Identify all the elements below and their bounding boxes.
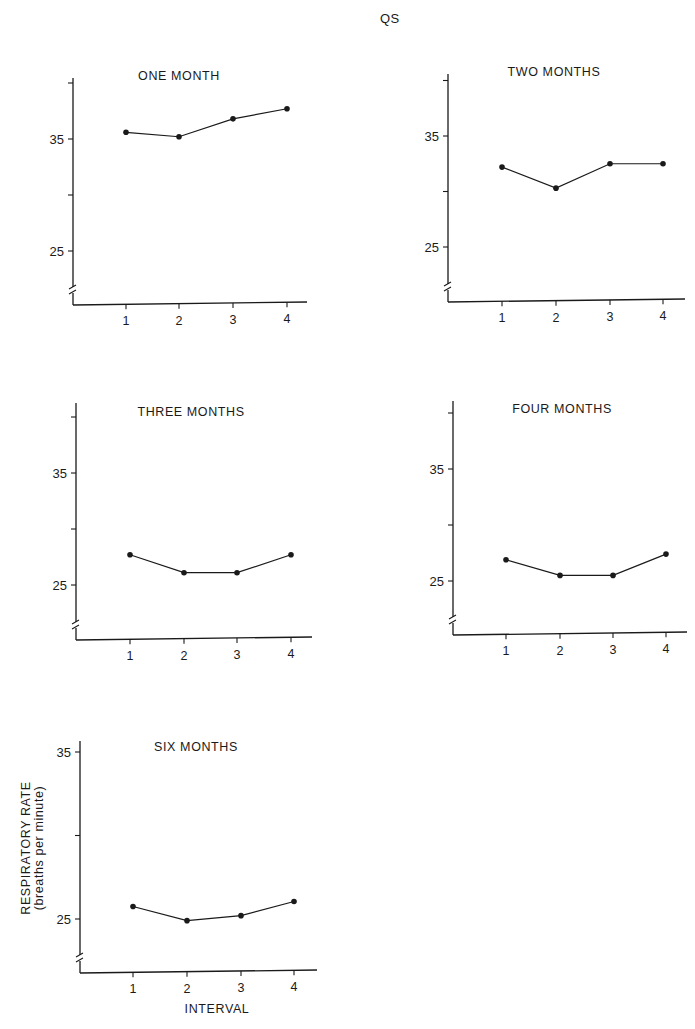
y-tick-label: 25 <box>57 912 71 927</box>
x-tick-label: 1 <box>499 311 506 325</box>
data-point <box>230 116 236 122</box>
data-point <box>127 552 133 558</box>
data-point <box>184 918 190 924</box>
x-tick-label: 4 <box>291 980 298 994</box>
chart-panels: ONE MONTH25351234TWO MONTHS25351234THREE… <box>50 65 687 996</box>
data-point <box>663 551 669 557</box>
chart-title: THREE MONTHS <box>137 405 244 419</box>
x-tick-label: 3 <box>230 313 237 327</box>
data-point <box>499 164 505 170</box>
chart-title: TWO MONTHS <box>508 65 601 79</box>
data-point <box>553 185 559 191</box>
y-tick-label: 25 <box>53 578 67 593</box>
x-tick-label: 3 <box>610 643 617 657</box>
data-point <box>607 161 613 167</box>
x-tick-label: 2 <box>184 982 191 996</box>
data-point <box>176 134 182 140</box>
data-line <box>133 901 294 920</box>
data-line <box>506 554 666 575</box>
chart-panel-3: THREE MONTHS25351234 <box>53 403 312 663</box>
x-axis-label: INTERVAL <box>185 1002 250 1016</box>
data-point <box>557 573 563 579</box>
y-tick-label: 25 <box>425 240 439 255</box>
x-tick-label: 1 <box>130 982 137 996</box>
x-tick-label: 3 <box>607 310 614 324</box>
data-point <box>123 129 129 135</box>
x-axis-line <box>76 637 312 640</box>
data-point <box>234 570 240 576</box>
data-point <box>660 161 666 167</box>
data-line <box>126 109 287 137</box>
data-point <box>130 904 136 910</box>
x-tick-label: 3 <box>238 981 245 995</box>
y-tick-label: 25 <box>430 574 444 589</box>
x-tick-label: 3 <box>234 648 241 662</box>
data-point <box>284 106 290 112</box>
y-tick-label: 35 <box>430 462 444 477</box>
x-axis-line <box>73 302 307 305</box>
y-axis-label-line1: RESPIRATORY RATE <box>19 781 33 914</box>
x-axis-line <box>448 299 685 302</box>
data-point <box>610 573 616 579</box>
x-tick-label: 2 <box>181 649 188 663</box>
x-tick-label: 4 <box>288 647 295 661</box>
data-point <box>291 899 297 905</box>
data-line <box>502 164 663 188</box>
x-tick-label: 4 <box>284 312 291 326</box>
chart-title: ONE MONTH <box>138 69 220 83</box>
x-axis-line <box>80 970 317 973</box>
x-tick-label: 2 <box>553 311 560 325</box>
y-axis-label-line2: (breaths per minute) <box>32 786 46 911</box>
data-point <box>238 913 244 919</box>
y-tick-label: 35 <box>50 132 64 147</box>
data-line <box>130 555 291 573</box>
x-tick-label: 2 <box>176 314 183 328</box>
x-tick-label: 1 <box>123 314 130 328</box>
x-tick-label: 2 <box>557 644 564 658</box>
chart-title: SIX MONTHS <box>154 740 238 754</box>
x-tick-label: 4 <box>663 642 670 656</box>
chart-panel-2: TWO MONTHS25351234 <box>425 65 685 325</box>
chart-panel-1: ONE MONTH25351234 <box>50 69 307 328</box>
data-point <box>288 552 294 558</box>
y-tick-label: 35 <box>425 129 439 144</box>
chart-panel-5: SIX MONTHS25351234 <box>57 740 317 996</box>
chart-title: FOUR MONTHS <box>512 402 612 416</box>
data-point <box>181 570 187 576</box>
x-tick-label: 1 <box>127 649 134 663</box>
x-tick-label: 4 <box>660 309 667 323</box>
x-tick-label: 1 <box>503 644 510 658</box>
data-point <box>503 557 509 563</box>
y-tick-label: 25 <box>50 244 64 259</box>
figure-canvas: ONE MONTH25351234TWO MONTHS25351234THREE… <box>0 0 695 1029</box>
x-axis-line <box>453 632 687 635</box>
y-axis-label: RESPIRATORY RATE (breaths per minute) <box>19 781 46 914</box>
chart-panel-4: FOUR MONTHS25351234 <box>430 401 687 658</box>
y-tick-label: 35 <box>57 745 71 760</box>
y-tick-label: 35 <box>53 466 67 481</box>
